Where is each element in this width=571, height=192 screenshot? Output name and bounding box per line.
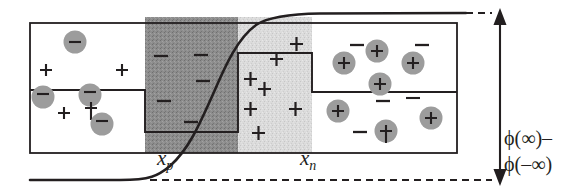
label-phi-line2: ϕ(–∞): [504, 152, 552, 178]
figure-canvas: xp xn ϕ(∞)– ϕ(–∞): [0, 0, 571, 192]
label-built-in-potential: ϕ(∞)– ϕ(–∞): [504, 126, 552, 177]
hole-charge: [40, 64, 52, 76]
donor-ion: [375, 120, 398, 144]
donor-ion: [333, 52, 356, 75]
label-phi-line1: ϕ(∞)–: [504, 126, 552, 152]
acceptor-ion: [91, 113, 114, 136]
label-xp-base: x: [157, 146, 166, 170]
hole-charge: [116, 64, 128, 76]
label-xp-subscript: p: [166, 158, 173, 173]
donor-ion: [402, 52, 425, 75]
label-xn: xn: [300, 146, 316, 174]
arrow-head-up: [495, 11, 505, 24]
donor-ion: [369, 73, 392, 96]
donor-ion: [327, 100, 350, 123]
donor-ion: [420, 107, 443, 130]
label-xn-subscript: n: [309, 158, 316, 173]
acceptor-ion: [64, 31, 87, 54]
hole-charge: [58, 107, 70, 119]
acceptor-ion: [32, 86, 55, 109]
charge-group-p-region: [32, 31, 129, 136]
pn-junction-diagram: [0, 0, 571, 192]
donor-ion: [366, 40, 389, 63]
label-xp: xp: [157, 146, 173, 174]
label-xn-base: x: [300, 146, 309, 170]
depletion-region-n-side: [238, 17, 312, 153]
